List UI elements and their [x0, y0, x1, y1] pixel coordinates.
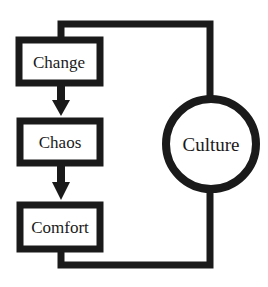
node-change: Change — [19, 40, 100, 83]
node-comfort-label: Comfort — [31, 218, 89, 237]
node-chaos-label: Chaos — [39, 133, 82, 152]
arrow-chaos-to-comfort — [52, 166, 70, 200]
node-culture: Culture — [166, 99, 256, 189]
node-culture-label: Culture — [183, 134, 240, 155]
node-comfort: Comfort — [20, 205, 100, 249]
culture-cycle-diagram: Change Chaos Comfort Culture — [0, 0, 268, 287]
node-change-label: Change — [33, 53, 85, 72]
arrow-change-to-chaos — [52, 86, 70, 116]
node-chaos: Chaos — [20, 121, 100, 163]
